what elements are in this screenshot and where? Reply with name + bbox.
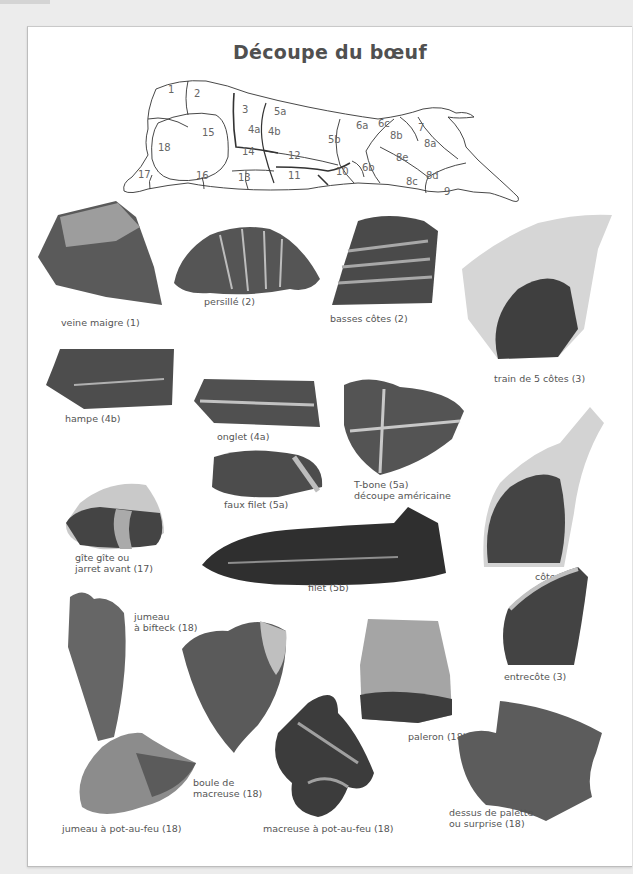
- cut-label: filet (5b): [308, 582, 349, 594]
- train-5-cotes-image: [458, 209, 614, 361]
- cut-label: entrecôte (3): [504, 671, 566, 683]
- page-title: Découpe du bœuf: [28, 41, 632, 63]
- cut-label: train de 5 côtes (3): [494, 373, 585, 385]
- macreuse-pot-au-feu-image: [268, 683, 380, 819]
- faux-filet-image: [208, 447, 324, 499]
- svg-text:9: 9: [444, 186, 450, 197]
- cut-label: basses côtes (2): [330, 313, 408, 325]
- svg-text:18: 18: [158, 142, 171, 153]
- cut-label: jarret avant (17): [75, 563, 153, 575]
- svg-text:6a: 6a: [356, 120, 369, 131]
- beef-cuts-diagram: 1 2 3 5a 4a 4b 15 5b 6a 6c 7 8b 8a 18 14…: [118, 71, 538, 221]
- svg-text:17: 17: [138, 169, 151, 180]
- svg-text:5a: 5a: [274, 106, 287, 117]
- veine-maigre-image: [36, 197, 164, 309]
- jumeau-pot-au-feu-image: [72, 727, 204, 819]
- cut-label: macreuse à pot-au-feu (18): [263, 823, 394, 835]
- cut-label: veine maigre (1): [61, 317, 140, 329]
- cote-image: [480, 403, 604, 569]
- hampe-image: [44, 345, 176, 411]
- filet-image: [198, 503, 446, 589]
- cut-label: ou surprise (18): [449, 818, 525, 830]
- svg-text:8d: 8d: [426, 170, 439, 181]
- svg-text:8c: 8c: [406, 176, 418, 187]
- persille-image: [170, 223, 322, 301]
- cut-label: découpe américaine: [354, 490, 451, 502]
- dessus-palette-image: [456, 697, 606, 825]
- jumeau-bifteck-image: [64, 587, 130, 741]
- svg-text:7: 7: [418, 122, 424, 133]
- svg-text:12: 12: [288, 150, 301, 161]
- t-bone-image: [340, 375, 464, 475]
- svg-text:10: 10: [336, 166, 349, 177]
- top-tab-strip: [0, 0, 50, 4]
- svg-text:6c: 6c: [378, 118, 390, 129]
- svg-text:15: 15: [202, 127, 215, 138]
- document-page: Découpe du bœuf: [27, 26, 632, 867]
- svg-text:2: 2: [194, 88, 200, 99]
- svg-text:16: 16: [196, 170, 209, 181]
- entrecote-image: [498, 565, 590, 667]
- svg-text:8a: 8a: [424, 138, 437, 149]
- svg-text:1: 1: [168, 84, 174, 95]
- cut-label: hampe (4b): [65, 413, 120, 425]
- svg-text:6b: 6b: [362, 162, 375, 173]
- basses-cotes-image: [328, 211, 438, 309]
- gite-image: [60, 479, 166, 551]
- cut-label: onglet (4a): [217, 431, 269, 443]
- svg-text:11: 11: [288, 170, 301, 181]
- svg-text:4a: 4a: [248, 124, 261, 135]
- svg-text:8b: 8b: [390, 130, 403, 141]
- svg-text:8e: 8e: [396, 152, 409, 163]
- cut-label: persillé (2): [204, 296, 255, 308]
- svg-text:4b: 4b: [268, 126, 281, 137]
- svg-text:5b: 5b: [328, 134, 341, 145]
- svg-text:13: 13: [238, 172, 251, 183]
- svg-text:14: 14: [242, 146, 255, 157]
- onglet-image: [194, 373, 322, 429]
- cut-label: jumeau à pot-au-feu (18): [62, 823, 181, 835]
- svg-text:3: 3: [242, 104, 248, 115]
